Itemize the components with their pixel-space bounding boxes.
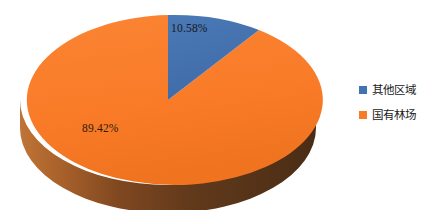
legend-label-state-forest-farm: 国有林场 (372, 109, 416, 122)
legend-label-other-areas: 其他区域 (372, 84, 416, 97)
slice-label-state-forest-farm: 89.42% (82, 122, 119, 134)
legend-swatch-icon-other-areas (359, 86, 367, 94)
pie-chart: 10.58% 89.42% 其他区域 国有林场 (0, 0, 438, 210)
legend-swatch-icon-state-forest-farm (359, 111, 367, 119)
legend-item-state-forest-farm[interactable]: 国有林场 (359, 108, 416, 122)
legend-item-other-areas[interactable]: 其他区域 (359, 83, 416, 97)
slice-label-other-areas: 10.58% (171, 22, 208, 34)
chart-legend: 其他区域 国有林场 (359, 83, 416, 122)
